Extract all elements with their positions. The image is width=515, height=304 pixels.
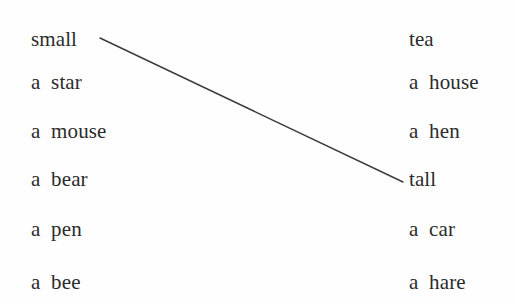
left-item-4[interactable]: a pen [31, 219, 82, 240]
right-item-4[interactable]: a car [409, 219, 455, 240]
right-item-3[interactable]: tall [409, 169, 436, 190]
matching-worksheet: small a star a mouse a bear a pen a bee … [0, 0, 515, 304]
left-column: small a star a mouse a bear a pen a bee [31, 0, 281, 304]
left-item-1[interactable]: a star [31, 72, 82, 93]
right-item-1[interactable]: a house [409, 72, 479, 93]
right-item-0[interactable]: tea [409, 29, 434, 50]
right-item-2[interactable]: a hen [409, 121, 460, 142]
left-item-0[interactable]: small [31, 29, 77, 50]
left-item-5[interactable]: a bee [31, 272, 81, 293]
right-column: tea a house a hen tall a car a hare [409, 0, 515, 304]
left-item-2[interactable]: a mouse [31, 121, 106, 142]
left-item-3[interactable]: a bear [31, 169, 88, 190]
right-item-5[interactable]: a hare [409, 272, 466, 293]
